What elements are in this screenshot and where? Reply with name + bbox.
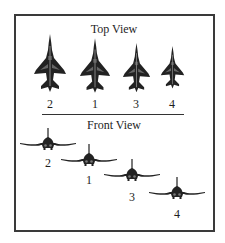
top-view-label-2: 2 <box>47 98 53 110</box>
top-view-title: Top View <box>91 23 138 35</box>
top-view-label-1: 1 <box>92 98 98 110</box>
top-view-aircraft-2-icon <box>33 34 67 94</box>
top-view-label-4: 4 <box>169 98 175 110</box>
front-view-aircraft-4-icon <box>148 177 206 201</box>
section-divider <box>42 114 184 115</box>
top-view-aircraft-4-icon <box>160 46 185 90</box>
top-view-label-3: 3 <box>133 98 139 110</box>
front-view-title: Front View <box>87 119 141 131</box>
top-view-aircraft-3-icon <box>122 43 151 94</box>
front-view-label-2: 2 <box>45 157 51 169</box>
front-view-label-4: 4 <box>174 208 180 220</box>
front-view-label-1: 1 <box>86 174 92 186</box>
top-view-aircraft-1-icon <box>79 38 111 95</box>
front-view-label-3: 3 <box>129 191 135 203</box>
